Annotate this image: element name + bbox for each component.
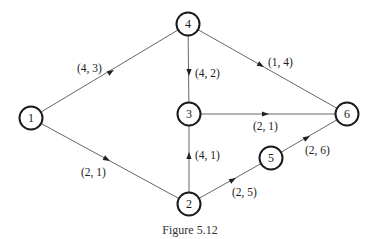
edge-label-2-3: (4, 1) <box>195 149 220 162</box>
edge-label-4-6: (1, 4) <box>268 56 293 69</box>
edge-label-5-6: (2, 6) <box>305 144 330 157</box>
node-1: 1 <box>20 107 43 130</box>
node-4: 4 <box>177 13 200 36</box>
diagram-svg: (4, 3) (2, 1) (4, 2) (1, 4) (2, 1) (4, 1… <box>0 0 377 239</box>
edge-labels: (4, 3) (2, 1) (4, 2) (1, 4) (2, 1) (4, 1… <box>77 56 330 199</box>
edge-label-1-2: (2, 1) <box>81 166 106 179</box>
arrow-icon-1-2 <box>103 155 112 163</box>
edge-label-1-4: (4, 3) <box>77 62 102 75</box>
arrow-icon-1-4 <box>107 68 116 76</box>
node-label-5: 5 <box>268 151 274 165</box>
arrow-icon-3-6 <box>262 111 269 116</box>
node-6: 6 <box>336 103 359 126</box>
arrow-icon-4-6 <box>257 61 266 69</box>
edge-label-4-3: (4, 2) <box>195 67 220 80</box>
node-label-4: 4 <box>185 17 191 31</box>
node-3: 3 <box>178 103 201 126</box>
edge-label-2-5: (2, 5) <box>232 186 257 199</box>
edge-label-3-6: (2, 1) <box>253 120 278 133</box>
figure-caption: Figure 5.12 <box>162 223 217 237</box>
network-diagram: (4, 3) (2, 1) (4, 2) (1, 4) (2, 1) (4, 1… <box>0 0 377 239</box>
node-5: 5 <box>260 147 283 170</box>
arrow-icon-2-5 <box>229 176 238 184</box>
node-label-3: 3 <box>186 107 192 121</box>
arrow-icon-2-3 <box>186 152 191 159</box>
node-label-2: 2 <box>186 197 192 211</box>
node-label-6: 6 <box>344 107 350 121</box>
node-2: 2 <box>178 193 201 216</box>
arrow-icon-4-3 <box>186 69 191 76</box>
node-label-1: 1 <box>28 111 34 125</box>
